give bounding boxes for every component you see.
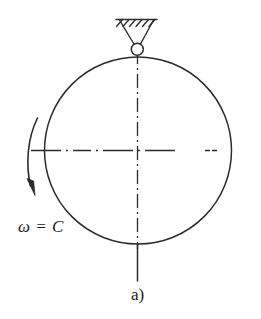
mechanics-figure: ω = C a) xyxy=(0,0,261,319)
pin-joint-icon xyxy=(131,43,143,55)
angular-velocity-label: ω = C xyxy=(18,217,64,237)
rotation-arrow-arc xyxy=(28,118,38,186)
rotation-arrow-icon xyxy=(27,118,38,196)
panel-label: a) xyxy=(131,285,144,305)
rotation-arrow-head xyxy=(27,179,35,196)
figure-canvas xyxy=(0,0,261,319)
